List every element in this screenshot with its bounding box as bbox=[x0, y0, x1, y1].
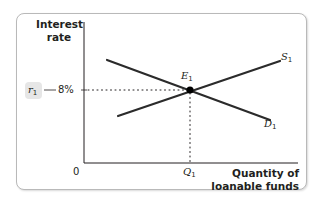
supply-curve-s1 bbox=[118, 61, 280, 116]
s1-label-sub: 1 bbox=[288, 56, 292, 64]
s1-label: S1 bbox=[281, 51, 292, 64]
d1-label: D1 bbox=[264, 118, 277, 131]
y-axis-label-line2: rate bbox=[36, 31, 82, 44]
q1-label-sub: 1 bbox=[191, 171, 195, 179]
r1-label-sub: 1 bbox=[33, 89, 37, 97]
d1-label-sub: 1 bbox=[272, 123, 276, 131]
r1-label: r1 bbox=[28, 84, 37, 97]
y-axis-label-line1: Interest bbox=[36, 18, 82, 31]
d1-label-main: D bbox=[264, 118, 272, 129]
x-axis-label-line2: loanable funds bbox=[211, 180, 299, 193]
y-axis-label: Interest rate bbox=[36, 18, 82, 44]
x-axis-label-line1: Quantity of bbox=[211, 167, 299, 180]
q1-label-main: Q bbox=[183, 166, 191, 177]
s1-label-main: S bbox=[281, 51, 288, 62]
e1-label-sub: 1 bbox=[188, 75, 192, 83]
equilibrium-point-e1 bbox=[186, 86, 193, 93]
e1-label: E1 bbox=[181, 70, 193, 83]
q1-label: Q1 bbox=[183, 166, 196, 179]
x-axis-label: Quantity of loanable funds bbox=[211, 167, 299, 192]
y-tick-label-8: 8% bbox=[58, 84, 74, 95]
origin-label: 0 bbox=[73, 166, 79, 177]
